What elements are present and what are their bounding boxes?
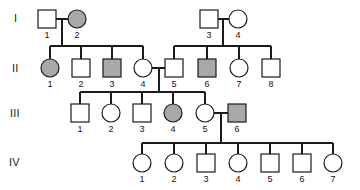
generation-label-I: I — [14, 12, 17, 24]
individual-IV-4-female-unaffected[interactable] — [229, 154, 247, 172]
individual-IV-6-male-unaffected[interactable] — [293, 154, 311, 172]
pedigree-canvas: 1234123456781234561234567 IIIIIIIV — [0, 0, 360, 190]
individual-symbols-layer — [38, 10, 342, 172]
individual-II-6-male-affected[interactable] — [198, 59, 216, 77]
individual-III-4-female-affected[interactable] — [164, 104, 182, 122]
individual-id-label-I-2: 2 — [74, 30, 79, 40]
individual-I-4-female-unaffected[interactable] — [229, 10, 247, 28]
individual-II-3-male-affected[interactable] — [103, 59, 121, 77]
individual-III-3-male-unaffected[interactable] — [133, 104, 151, 122]
individual-id-label-I-1: 1 — [44, 30, 49, 40]
individual-id-label-II-6: 6 — [204, 79, 209, 89]
individual-id-label-III-4: 4 — [170, 124, 175, 134]
individual-III-2-female-unaffected[interactable] — [102, 104, 120, 122]
individual-id-label-II-3: 3 — [109, 79, 114, 89]
individual-II-2-male-unaffected[interactable] — [72, 59, 90, 77]
individual-id-label-IV-3: 3 — [203, 174, 208, 184]
generation-label-IV: IV — [9, 156, 20, 168]
individual-id-label-III-1: 1 — [77, 124, 82, 134]
generation-labels-layer: IIIIIIIV — [9, 12, 20, 168]
individual-id-label-IV-5: 5 — [267, 174, 272, 184]
individual-id-label-III-6: 6 — [234, 124, 239, 134]
individual-II-8-male-unaffected[interactable] — [262, 59, 280, 77]
individual-II-1-female-affected[interactable] — [41, 59, 59, 77]
individual-III-5-female-unaffected[interactable] — [196, 104, 214, 122]
individual-I-3-male-unaffected[interactable] — [200, 10, 218, 28]
generation-label-II: II — [12, 62, 19, 74]
individual-id-label-III-5: 5 — [202, 124, 207, 134]
individual-id-label-IV-1: 1 — [139, 174, 144, 184]
individual-id-label-IV-4: 4 — [235, 174, 240, 184]
individual-II-5-male-unaffected[interactable] — [165, 59, 183, 77]
individual-III-6-male-affected[interactable] — [228, 104, 246, 122]
individual-id-label-II-4: 4 — [140, 79, 145, 89]
individual-IV-1-female-unaffected[interactable] — [133, 154, 151, 172]
generation-label-III: III — [10, 107, 20, 119]
individual-id-label-II-1: 1 — [47, 79, 52, 89]
pedigree-chart: 1234123456781234561234567 IIIIIIIV — [0, 0, 360, 190]
individual-II-4-female-unaffected[interactable] — [134, 59, 152, 77]
individual-II-7-female-unaffected[interactable] — [230, 59, 248, 77]
individual-IV-5-male-unaffected[interactable] — [261, 154, 279, 172]
individual-id-label-II-8: 8 — [268, 79, 273, 89]
individual-id-label-II-5: 5 — [171, 79, 176, 89]
individual-I-2-female-affected[interactable] — [68, 10, 86, 28]
individual-IV-2-female-unaffected[interactable] — [165, 154, 183, 172]
individual-III-1-male-unaffected[interactable] — [71, 104, 89, 122]
individual-id-label-IV-7: 7 — [330, 174, 335, 184]
individual-id-label-I-3: 3 — [206, 30, 211, 40]
individual-IV-3-male-unaffected[interactable] — [197, 154, 215, 172]
individual-id-label-IV-2: 2 — [171, 174, 176, 184]
individual-id-label-III-3: 3 — [139, 124, 144, 134]
individual-id-label-I-4: 4 — [235, 30, 240, 40]
individual-id-label-II-7: 7 — [236, 79, 241, 89]
individual-IV-7-female-unaffected[interactable] — [324, 154, 342, 172]
connection-lines-layer — [50, 19, 333, 154]
individual-id-label-II-2: 2 — [78, 79, 83, 89]
individual-id-label-III-2: 2 — [108, 124, 113, 134]
individual-id-label-IV-6: 6 — [299, 174, 304, 184]
individual-I-1-male-unaffected[interactable] — [38, 10, 56, 28]
